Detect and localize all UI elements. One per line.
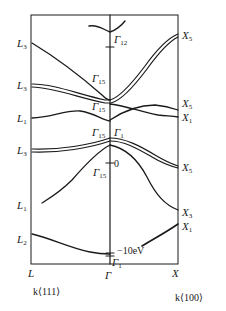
label-gamma12: Γ12 — [114, 34, 127, 49]
band-gamma12 — [89, 21, 125, 32]
label-l2: L2 — [17, 234, 27, 249]
label-l1-low: L1 — [17, 200, 27, 215]
energy-zero-label: 0 — [114, 158, 119, 169]
label-x5-valence: X5 — [182, 162, 192, 177]
band-l2-gamma1 — [32, 234, 110, 254]
axis-point-l: L — [28, 268, 34, 279]
band-x1-lower — [142, 224, 178, 246]
label-gamma15-mid: Γ15 — [92, 101, 105, 116]
label-l1-mid: L1 — [17, 113, 27, 128]
label-l3-mid: L3 — [17, 80, 27, 95]
label-l3-top: L3 — [17, 38, 27, 53]
energy-bottom-label: −10eV — [117, 245, 144, 256]
band-x5-valence-b — [110, 141, 178, 168]
label-gamma15-upper: Γ15 — [92, 73, 105, 88]
label-x1-mid: X1 — [182, 112, 192, 127]
label-gamma1-bottom: Γ1 — [112, 257, 122, 272]
label-x1-low: X1 — [182, 221, 192, 236]
label-l3-valence: L3 — [17, 145, 27, 160]
axis-label-k100: k⟨100⟩ — [175, 292, 203, 303]
label-gamma15-low: Γ15 — [92, 127, 105, 142]
axis-label-k111: k⟨111⟩ — [33, 286, 60, 297]
label-x5-top: X5 — [182, 30, 192, 45]
axis-point-gamma: Γ — [105, 270, 111, 281]
band-gamma15-x3 — [110, 145, 178, 210]
label-gamma15-valence: Γ15 — [93, 167, 106, 182]
label-gamma1-mid: Γ1 — [114, 127, 124, 142]
axis-point-x: X — [172, 268, 179, 279]
